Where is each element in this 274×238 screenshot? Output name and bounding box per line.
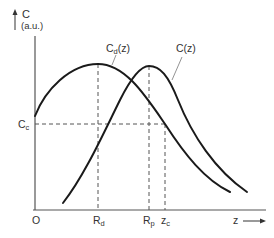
diagram: C (a.u.) Cd(z) C(z) Cc O Rd Rp zc z xyxy=(0,0,274,238)
y-axis-unit: (a.u.) xyxy=(21,20,43,31)
leader-cd xyxy=(112,55,116,65)
x-tick-zc: zc xyxy=(161,214,170,228)
leader-c xyxy=(172,57,182,80)
x-tick-origin: O xyxy=(32,214,40,226)
x-tick-rd: Rd xyxy=(93,214,105,228)
series-label-cd: Cd(z) xyxy=(106,42,130,56)
x-tick-rp: Rp xyxy=(143,214,155,228)
x-axis-label: z xyxy=(233,214,238,226)
x-axis-arrow-icon xyxy=(260,219,266,224)
y-tick-cc: Cc xyxy=(18,118,30,132)
curve-c xyxy=(63,66,247,203)
curve-cd xyxy=(35,64,230,192)
y-axis-arrow-icon xyxy=(13,9,18,15)
series-label-c: C(z) xyxy=(176,42,196,54)
y-axis-label: C xyxy=(22,8,30,20)
